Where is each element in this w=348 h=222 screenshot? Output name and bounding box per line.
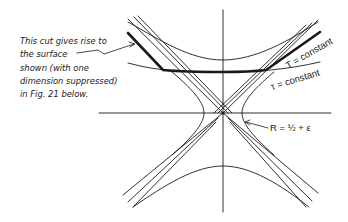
left-hyperbola <box>172 72 204 155</box>
annotation-line-2: the surface <box>20 49 67 59</box>
spacetime-diagram: This cut gives rise to the surface shown… <box>0 0 348 222</box>
origin-point <box>221 111 224 114</box>
annotation-line-5: in Fig. 21 below. <box>20 89 88 99</box>
annotation-line-4: dimension suppressed) <box>20 76 117 86</box>
annotation-line-1: This cut gives rise to <box>20 36 107 46</box>
diagram-canvas: This cut gives rise to the surface shown… <box>0 0 348 222</box>
handwritten-annotation: This cut gives rise to the surface shown… <box>20 36 117 99</box>
annotation-line-3: shown (with one <box>20 63 89 73</box>
tau-constant-label: τ = constant <box>269 67 321 92</box>
light-cone-lines <box>123 16 318 207</box>
r-constant-label: R = ½ + ε <box>270 122 311 133</box>
